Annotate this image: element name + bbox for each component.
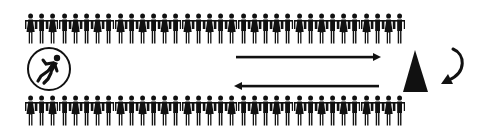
man-figure-icon [260, 13, 271, 45]
man-figure-icon [193, 95, 204, 127]
man-figure-icon [170, 13, 181, 45]
woman-figure-icon [70, 95, 81, 127]
woman-figure-icon [204, 13, 215, 45]
man-figure-icon [327, 13, 338, 45]
forward-arrow-icon [234, 52, 384, 62]
man-figure-icon [126, 13, 137, 45]
cone-icon [400, 48, 432, 94]
woman-figure-icon [294, 13, 305, 45]
man-figure-icon [372, 95, 383, 127]
man-figure-icon [59, 95, 70, 127]
woman-figure-icon [182, 13, 193, 45]
man-figure-icon [349, 95, 360, 127]
man-figure-icon [103, 13, 114, 45]
running-person-icon [26, 46, 72, 92]
man-figure-icon [81, 95, 92, 127]
man-figure-icon [126, 95, 137, 127]
woman-figure-icon [361, 95, 372, 127]
man-figure-icon [282, 95, 293, 127]
woman-figure-icon [383, 95, 394, 127]
woman-figure-icon [204, 95, 215, 127]
woman-figure-icon [271, 13, 282, 45]
man-figure-icon [238, 95, 249, 127]
top-row-people [25, 13, 405, 45]
man-figure-icon [327, 95, 338, 127]
man-figure-icon [305, 13, 316, 45]
woman-figure-icon [70, 13, 81, 45]
man-figure-icon [193, 13, 204, 45]
man-figure-icon [36, 95, 47, 127]
man-figure-icon [215, 13, 226, 45]
woman-figure-icon [338, 95, 349, 127]
man-figure-icon [260, 95, 271, 127]
woman-figure-icon [47, 13, 58, 45]
u-turn-arrow-icon [435, 44, 471, 92]
woman-figure-icon [25, 95, 36, 127]
man-figure-icon [148, 95, 159, 127]
woman-figure-icon [92, 13, 103, 45]
woman-figure-icon [249, 13, 260, 45]
bottom-row-people [25, 95, 405, 127]
woman-figure-icon [92, 95, 103, 127]
woman-figure-icon [115, 13, 126, 45]
man-figure-icon [394, 13, 405, 45]
man-figure-icon [394, 95, 405, 127]
woman-figure-icon [159, 95, 170, 127]
woman-figure-icon [226, 95, 237, 127]
man-figure-icon [59, 13, 70, 45]
woman-figure-icon [249, 95, 260, 127]
man-figure-icon [282, 13, 293, 45]
woman-figure-icon [294, 95, 305, 127]
woman-figure-icon [361, 13, 372, 45]
man-figure-icon [349, 13, 360, 45]
man-figure-icon [36, 13, 47, 45]
woman-figure-icon [137, 13, 148, 45]
man-figure-icon [170, 95, 181, 127]
woman-figure-icon [25, 13, 36, 45]
woman-figure-icon [316, 95, 327, 127]
man-figure-icon [81, 13, 92, 45]
man-figure-icon [372, 13, 383, 45]
return-arrow-icon [231, 81, 383, 91]
man-figure-icon [238, 13, 249, 45]
man-figure-icon [215, 95, 226, 127]
woman-figure-icon [159, 13, 170, 45]
woman-figure-icon [226, 13, 237, 45]
woman-figure-icon [115, 95, 126, 127]
man-figure-icon [103, 95, 114, 127]
woman-figure-icon [316, 13, 327, 45]
woman-figure-icon [383, 13, 394, 45]
woman-figure-icon [47, 95, 58, 127]
woman-figure-icon [137, 95, 148, 127]
woman-figure-icon [182, 95, 193, 127]
woman-figure-icon [271, 95, 282, 127]
man-figure-icon [148, 13, 159, 45]
man-figure-icon [305, 95, 316, 127]
woman-figure-icon [338, 13, 349, 45]
